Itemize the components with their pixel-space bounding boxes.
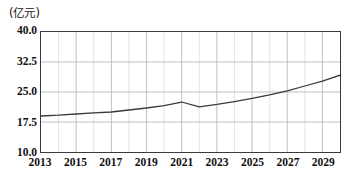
y-tick-label: 17.5	[1, 117, 37, 129]
x-tick-label: 2015	[55, 156, 95, 169]
y-tick-label: 40.0	[1, 25, 37, 37]
x-tick-label: 2023	[197, 156, 237, 169]
x-tick-label: 2029	[303, 156, 343, 169]
x-tick-label: 2027	[268, 156, 308, 169]
x-tick-label: 2025	[232, 156, 272, 169]
y-axis-unit-label: (亿元)	[9, 7, 40, 20]
x-tick-label: 2019	[126, 156, 166, 169]
y-tick-label: 25.0	[1, 86, 37, 98]
x-tick-label: 2021	[162, 156, 202, 169]
x-tick-label: 2013	[20, 156, 60, 169]
x-tick-label: 2017	[91, 156, 131, 169]
data-series-line	[41, 32, 340, 152]
line-chart: (亿元) 40.032.525.017.510.0 20132015201720…	[0, 0, 354, 187]
y-tick-label: 32.5	[1, 56, 37, 68]
y-axis-tick-labels: 40.032.525.017.510.0	[0, 31, 37, 153]
plot-area	[40, 31, 341, 153]
x-axis-tick-labels: 201320152017201920212023202520272029	[40, 156, 341, 176]
